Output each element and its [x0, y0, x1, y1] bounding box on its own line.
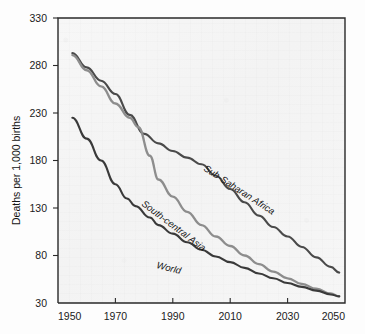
series-line-south-central-asia — [72, 55, 339, 296]
y-tick-label: 230 — [29, 107, 47, 119]
x-tick-label: 2010 — [219, 310, 243, 322]
y-tick-label: 330 — [29, 12, 47, 24]
x-tick-label: 1970 — [104, 310, 128, 322]
y-tick-label: 280 — [29, 59, 47, 71]
y-axis-ticks: 3302802301801308030 — [29, 12, 58, 309]
x-tick-label: 2030 — [276, 310, 300, 322]
x-tick-label: 2050 — [322, 310, 346, 322]
x-tick-label: 1950 — [58, 310, 82, 322]
chart-figure: Deaths per 1,000 births 3302802301801308… — [0, 0, 365, 334]
series-label-sub-saharan-africa: Sub-Saharan Africa — [202, 162, 277, 216]
series-line-world — [72, 118, 339, 297]
y-tick-label: 130 — [29, 202, 47, 214]
y-tick-label: 80 — [35, 249, 47, 261]
y-axis-title: Deaths per 1,000 births — [10, 116, 22, 225]
x-tick-label: 1990 — [161, 310, 185, 322]
y-axis-title-group: Deaths per 1,000 births — [10, 116, 22, 225]
y-tick-label: 180 — [29, 154, 47, 166]
series-line-sub-saharan-africa — [72, 53, 339, 272]
series-label-world: World — [156, 259, 183, 276]
y-tick-label: 30 — [35, 297, 47, 309]
line-chart: Deaths per 1,000 births 3302802301801308… — [0, 0, 365, 334]
series-lines-group — [72, 53, 339, 296]
series-label-south-central-asia: South-central Asia — [140, 198, 208, 253]
x-axis-ticks: 195019701990201020302050 — [58, 298, 345, 322]
